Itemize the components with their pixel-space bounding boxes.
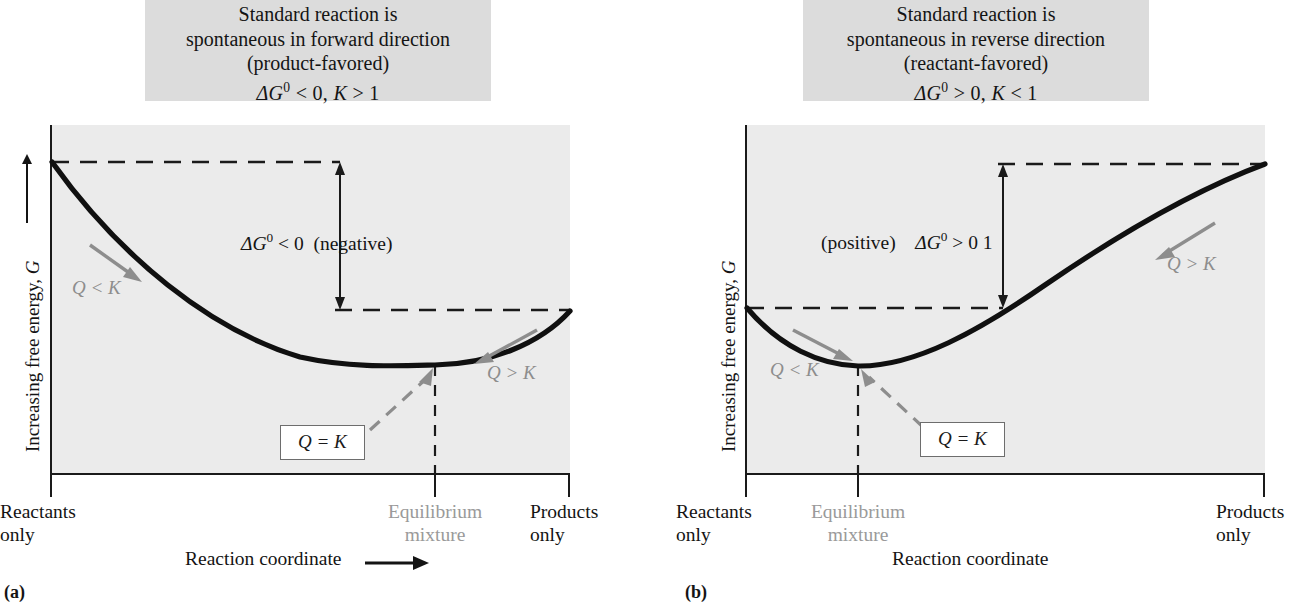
x-label-products-b-line2: only xyxy=(1216,523,1303,546)
x-label-products-a-line1: Products xyxy=(530,500,635,523)
x-label-equilibrium-b: Equilibrium mixture xyxy=(792,500,924,546)
x-label-equilibrium-b-line2: mixture xyxy=(792,523,924,546)
x-label-reactants-b-line1: Reactants xyxy=(676,500,786,523)
x-label-reactants-b: Reactants only xyxy=(676,500,786,546)
panel-caption-a: (a) xyxy=(4,582,25,603)
x-label-reactants-a-line1: Reactants xyxy=(0,500,105,523)
panel-caption-b: (b) xyxy=(685,582,707,603)
reaction-direction-arrow-icon-a xyxy=(365,552,435,576)
x-label-equilibrium-a: Equilibrium mixture xyxy=(369,500,501,546)
x-axis-title-b: Reaction coordinate xyxy=(892,548,1048,570)
panel-b: Standard reaction is spontaneous in reve… xyxy=(651,0,1303,606)
x-label-equilibrium-a-line1: Equilibrium xyxy=(369,500,501,523)
x-label-products-a: Products only xyxy=(530,500,635,546)
x-label-equilibrium-b-line1: Equilibrium xyxy=(792,500,924,523)
x-label-reactants-b-line2: only xyxy=(676,523,786,546)
x-label-products-b-line1: Products xyxy=(1216,500,1303,523)
x-label-products-a-line2: only xyxy=(530,523,635,546)
x-label-products-b: Products only xyxy=(1216,500,1303,546)
x-label-reactants-a-line2: only xyxy=(0,523,105,546)
x-axis-title-a: Reaction coordinate xyxy=(185,548,341,570)
x-label-equilibrium-a-line2: mixture xyxy=(369,523,501,546)
x-label-reactants-a: Reactants only xyxy=(0,500,105,546)
panel-a: Standard reaction is spontaneous in forw… xyxy=(0,0,651,606)
